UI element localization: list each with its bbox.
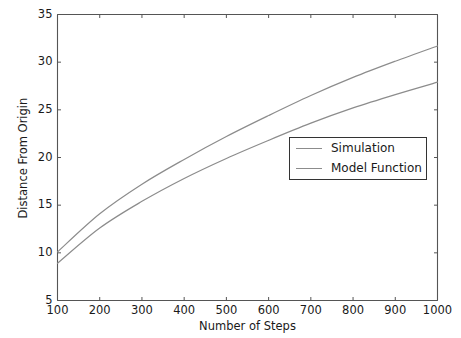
- x-axis-title: Number of Steps: [0, 321, 461, 333]
- y-tick-label: 25: [38, 104, 53, 116]
- y-tick-label: 35: [38, 9, 53, 21]
- legend-item-label: Model Function: [331, 162, 422, 174]
- legend-line-icon: [296, 148, 322, 149]
- legend-item-model-function: Model Function: [290, 158, 426, 178]
- chart-legend: Simulation Model Function: [289, 137, 427, 180]
- y-tick-label: 20: [38, 152, 53, 164]
- chart-figure: 5101520253035 10020030040050060070080090…: [0, 0, 461, 338]
- legend-item-simulation: Simulation: [290, 138, 426, 158]
- legend-line-icon: [296, 168, 322, 169]
- x-tick-label: 1000: [408, 305, 461, 317]
- y-axis-title: Distance From Origin: [18, 97, 30, 218]
- legend-item-label: Simulation: [331, 142, 395, 154]
- y-tick-label: 30: [38, 56, 53, 68]
- y-tick-label: 15: [38, 199, 53, 211]
- y-tick-label: 10: [38, 247, 53, 259]
